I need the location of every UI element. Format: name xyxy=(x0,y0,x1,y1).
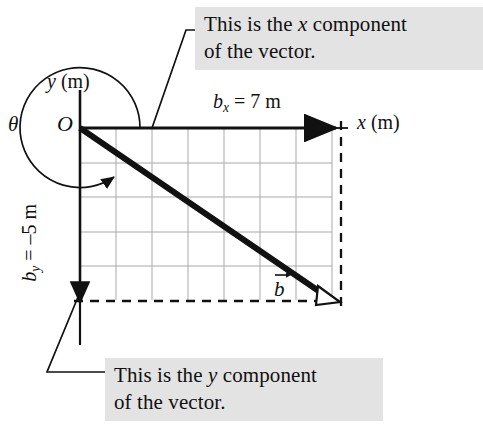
y-axis-label-var: y xyxy=(47,70,56,92)
bx-component-label: bx = 7 m xyxy=(213,90,281,116)
callout-x-line1-after: component xyxy=(307,12,407,36)
x-axis-label-unit: (m) xyxy=(371,111,400,133)
y-axis-label: y (m) xyxy=(47,70,90,93)
callout-x-line1-before: This is the xyxy=(204,12,298,36)
bx-value: = 7 m xyxy=(234,90,281,112)
callout-y-line1-after: component xyxy=(217,363,317,387)
by-value: = –5 m xyxy=(18,204,40,261)
vector-overbar-arrow-icon xyxy=(274,271,291,278)
callout-y-line1-before: This is the xyxy=(114,363,208,387)
callout-y-component: This is the y component of the vector. xyxy=(105,358,383,421)
figure-canvas: θ O y (m) x (m) bx = 7 m by = –5 m b Thi… xyxy=(0,0,483,432)
vector-b-arrowhead-hollow xyxy=(316,286,340,305)
by-component-label: by = –5 m xyxy=(18,204,44,282)
by-var: b xyxy=(18,272,40,282)
y-axis-label-unit: (m) xyxy=(61,70,90,92)
x-axis-label-var: x xyxy=(357,111,366,133)
x-axis-label: x (m) xyxy=(357,111,400,134)
bx-subscript: x xyxy=(223,100,229,115)
vector-b-label: b xyxy=(274,277,285,302)
bx-var: b xyxy=(213,90,223,112)
callout-x-component: This is the x component of the vector. xyxy=(195,7,483,70)
by-subscript: y xyxy=(28,266,43,272)
callout-y-line2: of the vector. xyxy=(114,390,226,414)
origin-label: O xyxy=(57,111,73,137)
vector-b-letter: b xyxy=(274,277,285,301)
callout-y-italic-var: y xyxy=(208,363,217,387)
theta-label: θ xyxy=(8,112,18,137)
callout-x-italic-var: x xyxy=(298,12,307,36)
callout-x-line2: of the vector. xyxy=(204,39,316,63)
